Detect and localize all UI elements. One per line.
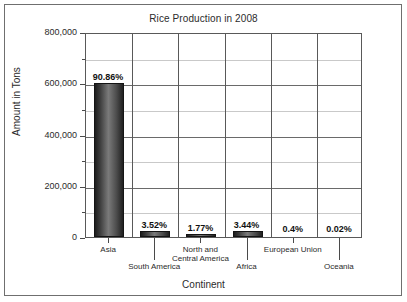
gridline-minor: [86, 162, 361, 163]
y-axis-tick-label: 200,000: [23, 181, 77, 191]
bar: [94, 83, 124, 237]
column-divider: [178, 34, 179, 237]
y-axis-title: Amount in Tons: [11, 42, 22, 162]
x-axis-tick-label: Asia: [63, 245, 153, 254]
y-axis-minor-tick-mark: [82, 161, 85, 162]
y-axis-tick-label: 600,000: [23, 78, 77, 88]
plot-area: [85, 33, 362, 238]
x-axis-tick-label: Africa: [202, 262, 292, 271]
x-axis-tick-mark: [200, 238, 201, 243]
column-divider: [271, 34, 272, 237]
x-axis-tick-mark: [293, 238, 294, 243]
chart-figure: Rice Production in 2008 Amount in Tons 0…: [0, 0, 407, 302]
y-axis-tick-label: 0: [23, 232, 77, 242]
y-axis-minor-tick-mark: [82, 212, 85, 213]
bar-value-label: 0.02%: [309, 224, 369, 234]
x-axis-title: Continent: [0, 279, 407, 290]
gridline-minor: [86, 111, 361, 112]
column-divider: [225, 34, 226, 237]
y-axis-tick-label: 400,000: [23, 130, 77, 140]
bar-value-label: 90.86%: [78, 72, 138, 82]
bar: [233, 231, 263, 237]
y-axis-tick-mark: [80, 238, 85, 239]
x-axis-tick-label: South America: [109, 262, 199, 271]
gridline-major: [86, 85, 361, 86]
gridline-major: [86, 137, 361, 138]
x-axis-tick-mark: [339, 238, 340, 260]
y-axis-minor-tick-mark: [82, 110, 85, 111]
y-axis-tick-mark: [80, 136, 85, 137]
x-axis-tick-label: North andCentral America: [155, 245, 245, 263]
y-axis-tick-label: 800,000: [23, 27, 77, 37]
chart-title: Rice Production in 2008: [0, 13, 407, 24]
gridline-minor: [86, 213, 361, 214]
y-axis-tick-mark: [80, 33, 85, 34]
gridline-major: [86, 188, 361, 189]
x-axis-tick-label: European Union: [248, 245, 338, 254]
column-divider: [317, 34, 318, 237]
gridline-minor: [86, 60, 361, 61]
column-divider: [132, 34, 133, 237]
x-axis-tick-mark: [108, 238, 109, 243]
y-axis-tick-mark: [80, 84, 85, 85]
x-axis-tick-label: Oceania: [294, 262, 384, 271]
y-axis-minor-tick-mark: [82, 59, 85, 60]
bar: [140, 231, 170, 237]
bar: [186, 234, 216, 237]
y-axis-tick-mark: [80, 187, 85, 188]
